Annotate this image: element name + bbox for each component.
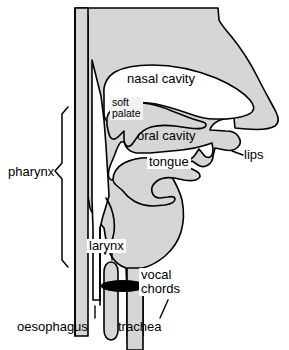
label-larynx: larynx <box>87 239 126 253</box>
label-soft-palate: softpalate <box>110 97 143 120</box>
label-tongue: tongue <box>147 155 191 169</box>
label-vocal-chords-line1: vocal <box>141 267 171 282</box>
label-vocal-chords-line2: chords <box>141 281 180 296</box>
label-soft-palate-line1: soft <box>112 96 129 108</box>
label-pharynx: pharynx <box>8 165 54 179</box>
lips-leader-line <box>232 151 243 155</box>
label-lips: lips <box>244 148 264 162</box>
label-oesophagus: oesophagus <box>17 320 88 334</box>
pharynx-brace <box>55 107 68 267</box>
label-nasal-cavity: nasal cavity <box>127 72 195 86</box>
oesophagus-tube <box>75 8 88 336</box>
label-oral-cavity: oral cavity <box>137 129 196 143</box>
vocal-tract-diagram: nasal cavity softpalate oral cavity tong… <box>0 0 289 350</box>
label-trachea: trachea <box>118 320 161 334</box>
larynx-body <box>104 262 118 340</box>
trachea-leader-line <box>160 300 168 318</box>
label-soft-palate-line2: palate <box>112 107 141 119</box>
label-vocal-chords: vocalchords <box>139 268 182 296</box>
